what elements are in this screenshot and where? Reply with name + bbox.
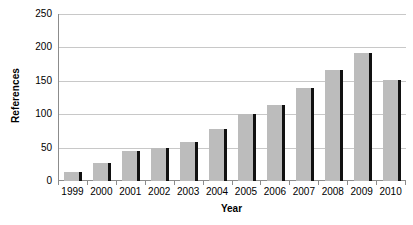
bar-chart-figure: References 050100150200250 1999200020012… bbox=[0, 0, 413, 225]
bar-slot bbox=[88, 14, 117, 181]
x-axis-tick-label: 2008 bbox=[318, 186, 347, 200]
x-axis-tick-mark bbox=[203, 181, 204, 185]
bar[interactable] bbox=[383, 80, 401, 181]
bar-slot bbox=[290, 14, 319, 181]
y-axis-tick-label: 200 bbox=[35, 42, 52, 52]
y-axis-tick-label: 150 bbox=[35, 76, 52, 86]
x-axis-tick-mark bbox=[145, 181, 146, 185]
x-axis-tick-mark bbox=[260, 181, 261, 185]
bar-slot bbox=[117, 14, 146, 181]
x-axis-tick-mark bbox=[376, 181, 377, 185]
x-axis-tick-mark bbox=[289, 181, 290, 185]
bar[interactable] bbox=[354, 53, 372, 181]
y-axis-tick-label: 0 bbox=[46, 176, 52, 186]
x-axis-tick-label: 2004 bbox=[203, 186, 232, 200]
bar[interactable] bbox=[64, 172, 82, 181]
bar[interactable] bbox=[296, 88, 314, 181]
bar[interactable] bbox=[93, 163, 111, 181]
bar-slot bbox=[233, 14, 262, 181]
x-axis-tick-mark bbox=[116, 181, 117, 185]
x-axis-tick-mark bbox=[232, 181, 233, 185]
x-axis-tick-mark bbox=[174, 181, 175, 185]
bar[interactable] bbox=[122, 151, 140, 181]
x-axis-tick-mark bbox=[318, 181, 319, 185]
x-axis-tick-mark bbox=[87, 181, 88, 185]
bar[interactable] bbox=[238, 114, 256, 181]
x-axis-tick-mark bbox=[405, 181, 406, 185]
x-axis-tick-label: 2006 bbox=[260, 186, 289, 200]
bar[interactable] bbox=[180, 142, 198, 181]
x-axis-tick-labels: 1999200020012002200320042005200620072008… bbox=[58, 186, 405, 200]
bar-slot bbox=[175, 14, 204, 181]
x-axis-tick-label: 2007 bbox=[289, 186, 318, 200]
bar-slot bbox=[146, 14, 175, 181]
y-axis-tick-labels: 050100150200250 bbox=[26, 8, 56, 182]
x-axis-tick-mark bbox=[347, 181, 348, 185]
bar[interactable] bbox=[325, 70, 343, 181]
bar-slot bbox=[261, 14, 290, 181]
bar-slot bbox=[377, 14, 406, 181]
plot-area bbox=[58, 14, 406, 181]
x-axis-tick-label: 1999 bbox=[58, 186, 87, 200]
x-axis-tick-marks bbox=[58, 181, 405, 185]
x-axis-tick-label: 2003 bbox=[174, 186, 203, 200]
bar[interactable] bbox=[151, 148, 169, 181]
x-axis-title: Year bbox=[58, 203, 405, 214]
y-axis-title-text: References bbox=[10, 68, 21, 123]
x-axis-tick-label: 2005 bbox=[232, 186, 261, 200]
x-axis-tick-mark bbox=[58, 181, 59, 185]
y-axis-tick-label: 100 bbox=[35, 109, 52, 119]
x-axis-tick-label: 2010 bbox=[376, 186, 405, 200]
bar-slot bbox=[319, 14, 348, 181]
x-axis-tick-label: 2000 bbox=[87, 186, 116, 200]
bar-slot bbox=[204, 14, 233, 181]
bar-slot bbox=[59, 14, 88, 181]
bar[interactable] bbox=[209, 129, 227, 181]
x-axis-tick-label: 2002 bbox=[145, 186, 174, 200]
y-axis-tick-label: 50 bbox=[41, 143, 52, 153]
y-axis-tick-label: 250 bbox=[35, 9, 52, 19]
x-axis-tick-label: 2009 bbox=[347, 186, 376, 200]
bar[interactable] bbox=[267, 105, 285, 181]
bars-layer bbox=[59, 14, 406, 181]
x-axis-tick-label: 2001 bbox=[116, 186, 145, 200]
bar-slot bbox=[348, 14, 377, 181]
